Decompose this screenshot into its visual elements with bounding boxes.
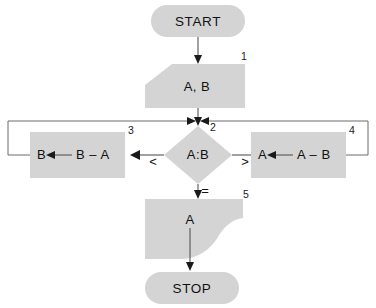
flowchart-svg: START A, B 1 [0, 0, 376, 308]
process-right-expression: A – B [297, 147, 331, 162]
flowchart-canvas: START A, B 1 [0, 0, 376, 308]
node-start: START [151, 5, 245, 37]
process-left-step-number: 3 [128, 124, 134, 136]
branch-label-greater: > [241, 154, 249, 169]
process-left-expression: B – A [76, 147, 110, 162]
start-label: START [175, 14, 221, 29]
node-process-left: B B – A 3 [30, 124, 134, 178]
output-label: A [185, 212, 194, 227]
branch-label-less: < [149, 154, 157, 169]
output-shape [145, 199, 243, 259]
output-step-number: 5 [243, 188, 249, 200]
stop-label: STOP [173, 281, 212, 296]
input-label: A, B [184, 79, 211, 94]
process-right-target: A [258, 147, 267, 162]
node-process-right: A A – B 4 [251, 124, 355, 178]
node-decision: A:B 2 [164, 121, 232, 184]
edge-start-to-input [194, 37, 202, 64]
branch-label-equal: = [201, 183, 209, 198]
node-output: A 5 [145, 188, 249, 259]
edge-decision-to-left [130, 150, 164, 160]
decision-step-number: 2 [210, 121, 216, 133]
decision-label: A:B [187, 147, 209, 162]
process-left-target: B [37, 147, 46, 162]
edge-input-to-decision [194, 108, 202, 126]
node-stop: STOP [145, 272, 239, 304]
process-right-step-number: 4 [349, 124, 355, 136]
input-step-number: 1 [241, 50, 247, 62]
